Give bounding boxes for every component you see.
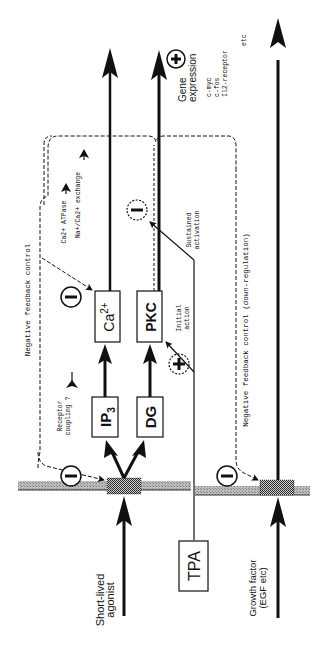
ca-atpase-label: Ca2+ ATPase — [61, 200, 68, 243]
initial-action-line1: Initial — [176, 304, 183, 331]
dg-label: DG — [142, 406, 159, 429]
negative-feedback-label: Negative feedback control — [24, 243, 32, 356]
dg-node: DG — [137, 397, 163, 437]
receptor-coupling-line1: Receptor — [57, 400, 64, 431]
ip3-to-ca-arrow — [98, 344, 112, 397]
growth-factor-arrow — [270, 497, 286, 618]
inhibit-growth-factor-symbol — [217, 466, 237, 486]
gene-expression-title2: expression — [187, 54, 198, 102]
sustained-activation-line2: activation — [194, 210, 201, 249]
gene-item-il2-receptor: Il2-receptor — [222, 50, 229, 97]
growth-factor-label-line2: (EGF etc) — [257, 567, 268, 608]
gene-item-etc: etc — [241, 34, 248, 46]
ip3-node: IP3 — [92, 397, 118, 437]
tpa-node: TPA — [179, 541, 208, 591]
pkc-label: PKC — [143, 302, 159, 332]
gene-item-c-fos: c-fos — [214, 77, 221, 97]
receptor-coupling-line2: coupling ? — [65, 396, 72, 435]
tpa-label: TPA — [186, 551, 203, 581]
down-regulation-label: Negative feedback control (down-regulati… — [242, 233, 250, 427]
gene-expression-plus — [167, 50, 185, 68]
signal-transduction-diagram: IP3 DG Ca2+ PKC — [0, 0, 320, 649]
gene-expression-label: Gene expression c-myc c-fos Il2-receptor… — [177, 34, 248, 102]
pkc-pathway — [151, 50, 167, 291]
inhibit-calcium-symbol — [61, 287, 81, 307]
tpa-pathway — [150, 222, 194, 540]
inhibit-pkc-symbol — [127, 200, 147, 220]
initial-action-line2: action — [184, 306, 191, 330]
na-ca-exchange-label: Na+/Ca2+ exchange — [75, 172, 82, 238]
growth-factor-receptor — [260, 480, 294, 495]
pkc-node: PKC — [137, 291, 162, 342]
receptor-to-second-messengers — [104, 440, 146, 478]
gene-item-c-myc: c-myc — [206, 77, 213, 97]
agonist-receptor — [107, 478, 141, 494]
inhibit-receptor-symbol — [61, 466, 81, 486]
calcium-node: Ca2+ — [95, 291, 120, 342]
agonist-label-line2: agonist — [104, 582, 116, 617]
agonist-arrow — [116, 496, 132, 616]
feedback-to-calcium — [42, 258, 92, 290]
sustained-activation-line1: Sustained — [186, 212, 193, 247]
dg-to-pkc-arrow — [143, 344, 157, 397]
growth-factor-pathway — [270, 18, 286, 480]
calcium-pathway — [102, 48, 118, 291]
